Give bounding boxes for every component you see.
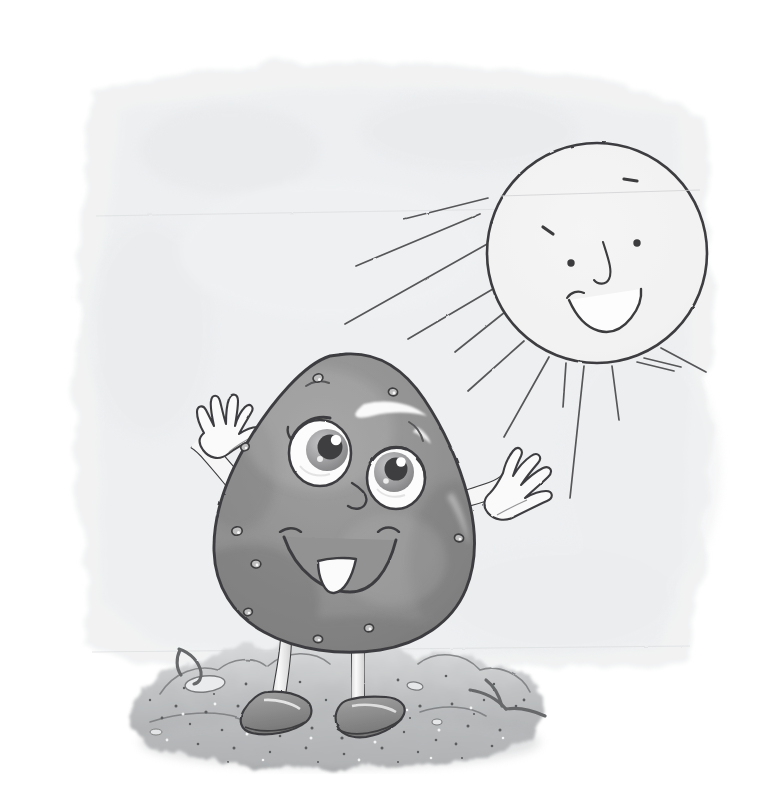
- potato-illustration: [0, 0, 784, 800]
- illustration-canvas: Smiling potato character waving under a …: [0, 0, 784, 800]
- paper-grain-overlay: [0, 0, 784, 800]
